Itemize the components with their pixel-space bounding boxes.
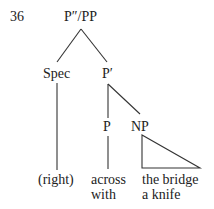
- tree-branches: [0, 0, 214, 209]
- branch-root-to-spec: [57, 29, 81, 62]
- branch-root-to-pbar: [81, 29, 107, 62]
- branch-pbar-to-np: [108, 84, 140, 114]
- np-triangle: [142, 135, 200, 168]
